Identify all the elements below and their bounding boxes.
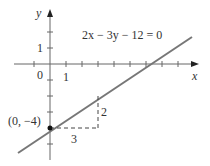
- y-axis-label: y: [35, 6, 42, 20]
- run-label: 3: [71, 132, 77, 146]
- origin-label: 0: [37, 68, 43, 82]
- x-axis-label: x: [191, 69, 198, 83]
- rise-label: 2: [101, 105, 107, 119]
- x-axis-arrow-icon: [191, 61, 199, 67]
- y-axis-arrow-icon: [47, 9, 53, 17]
- y-intercept-point: [48, 126, 53, 131]
- y-tick-label: 1: [37, 41, 43, 55]
- equation-line: [18, 37, 192, 153]
- equation-label: 2x − 3y − 12 = 0: [82, 28, 162, 42]
- graph: y x 0 1 1 2x − 3y − 12 = 0 (0, −4) 3 2: [0, 0, 210, 166]
- x-tick-label: 1: [63, 70, 69, 84]
- point-label: (0, −4): [8, 114, 41, 128]
